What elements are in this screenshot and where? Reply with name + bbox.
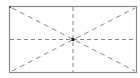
corner-marker	[9, 6, 11, 8]
guide-diagram	[0, 0, 140, 78]
center-point	[72, 38, 75, 41]
